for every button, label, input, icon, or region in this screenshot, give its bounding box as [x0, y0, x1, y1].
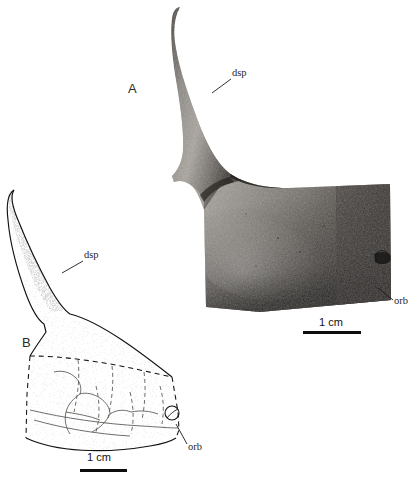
panel-b-drawing	[0, 180, 210, 460]
drawing-stipple-fill	[0, 180, 210, 460]
panel-b-dsp-label: dsp	[84, 250, 99, 261]
panel-a-scale-text: 1 cm	[319, 317, 343, 328]
panel-b-scale-bar	[80, 469, 127, 472]
panel-a-orb-label: orb	[394, 296, 408, 307]
panel-a-scale-bar	[303, 331, 361, 334]
panel-a-letter: A	[128, 82, 137, 95]
panel-b-letter: B	[22, 336, 31, 349]
panel-b-orb-label: orb	[188, 442, 202, 453]
panel-a-dsp-label: dsp	[232, 68, 247, 79]
panel-b-scale-text: 1 cm	[87, 452, 111, 463]
scientific-figure: A B dsp orb dsp orb 1 cm 1 cm	[0, 0, 419, 480]
